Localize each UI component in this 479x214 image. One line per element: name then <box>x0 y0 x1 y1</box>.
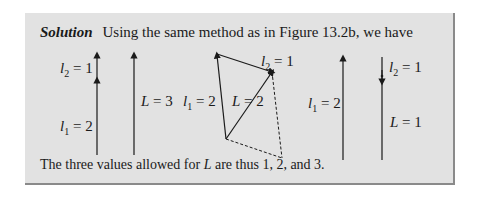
panel-l1: l1 = 2 <box>308 58 343 160</box>
vector-addition-diagram: l2 = 1 l1 = 2 L = 3 l1 = 2 L = 2 l2 = 1 … <box>0 0 479 214</box>
svg-text:l2 = 1: l2 = 1 <box>60 60 93 79</box>
conclusion-prefix: The three values allowed for <box>40 157 204 172</box>
svg-text:l1 = 2: l1 = 2 <box>308 95 341 114</box>
svg-text:l1 = 2: l1 = 2 <box>183 93 216 112</box>
svg-text:L = 2: L = 2 <box>231 93 264 109</box>
svg-text:l2 = 1: l2 = 1 <box>389 59 422 78</box>
svg-text:L = 1: L = 1 <box>389 114 422 130</box>
panel-L2-triangle: l1 = 2 L = 2 l2 = 1 <box>183 53 294 158</box>
conclusion-text: The three values allowed for L are thus … <box>40 157 325 173</box>
conclusion-suffix: are thus 1, 2, and 3. <box>211 157 324 172</box>
svg-text:l1 = 2: l1 = 2 <box>60 118 93 137</box>
svg-text:l2 = 1: l2 = 1 <box>261 53 294 72</box>
panel-l1-plus-l2-aligned: l2 = 1 l1 = 2 <box>60 55 97 155</box>
panel-L3: L = 3 <box>134 55 173 155</box>
panel-L1-antiparallel: l2 = 1 L = 1 <box>381 57 422 160</box>
svg-text:L = 3: L = 3 <box>140 93 173 109</box>
